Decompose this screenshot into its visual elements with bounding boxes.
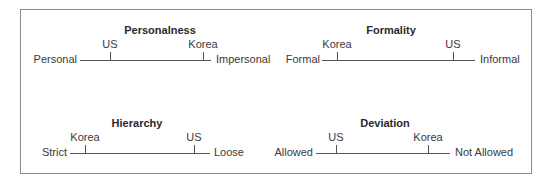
left-pole-label: Allowed [274,146,313,158]
marker-label: US [328,131,343,143]
scale-title: Deviation [360,117,410,129]
marker-label: Korea [413,131,442,143]
scale-axis [316,153,450,154]
marker-tick [428,145,429,153]
deviation-scale: Deviation US Korea Allowed Not Allowed [0,0,556,187]
marker-tick [336,145,337,153]
right-pole-label: Not Allowed [455,146,513,158]
